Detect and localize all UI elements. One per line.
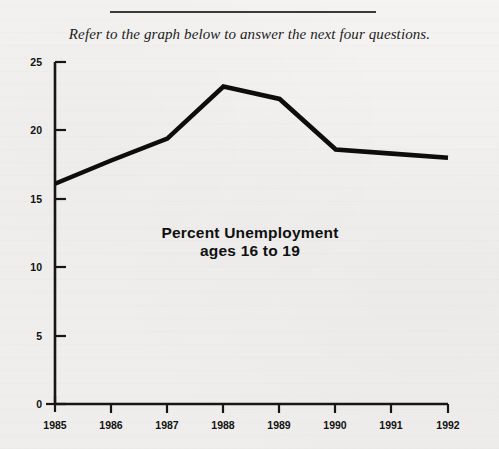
x-axis-labels: 1985 1986 1987 1988 1989 1990 1991 1992 bbox=[43, 419, 460, 431]
y-tick-label: 10 bbox=[30, 261, 42, 273]
y-axis-labels: 25 20 15 10 5 0 bbox=[30, 56, 42, 410]
x-tick-label: 1992 bbox=[436, 419, 460, 431]
x-tick-label: 1991 bbox=[379, 419, 403, 431]
y-tick-label: 0 bbox=[36, 398, 42, 410]
y-tick-label: 15 bbox=[30, 193, 42, 205]
y-tick-label: 25 bbox=[30, 56, 42, 68]
x-tick-label: 1989 bbox=[267, 419, 291, 431]
line-chart: 25 20 15 10 5 0 1985 1986 1987 1988 1989… bbox=[0, 0, 499, 449]
chart-title: Percent Unemployment bbox=[161, 224, 338, 241]
x-tick-label: 1985 bbox=[43, 419, 67, 431]
x-tick-label: 1986 bbox=[99, 419, 123, 431]
chart-subtitle: ages 16 to 19 bbox=[200, 242, 300, 259]
x-tick-label: 1990 bbox=[323, 419, 347, 431]
unemployment-series-line bbox=[55, 87, 448, 184]
y-tick-label: 5 bbox=[36, 330, 42, 342]
x-tick-label: 1987 bbox=[155, 419, 179, 431]
x-tick-label: 1988 bbox=[211, 419, 235, 431]
y-tick-label: 20 bbox=[30, 124, 42, 136]
